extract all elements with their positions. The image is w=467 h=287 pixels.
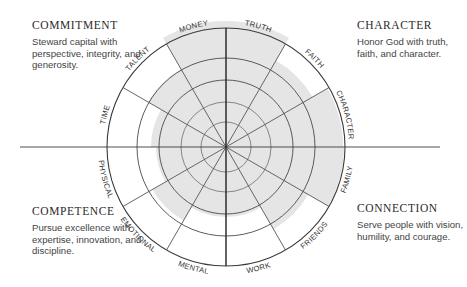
segment-label-friends: FRIENDS [299,220,330,251]
segment-label-faith: FAITH [303,47,326,70]
segment-label-work: WORK [246,260,272,275]
segment-label-physical: PHYSICAL [97,160,116,200]
segment-label-emotional: EMOTIONAL [119,215,158,254]
segment-label-talent: TALENT [123,44,151,72]
